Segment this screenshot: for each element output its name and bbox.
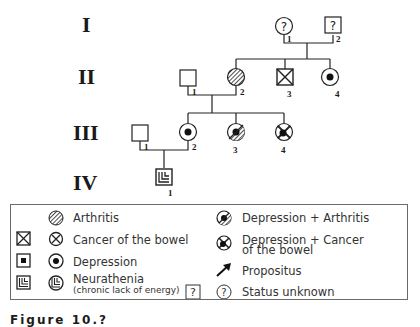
legend-label-depression-cancer: Depression + Cancer of the bowel — [242, 235, 364, 255]
legend-label-neurathenia: Neurathenia (chronic lack of energy) — [73, 273, 180, 295]
legend-label-depression-arthritis: Depression + Arthritis — [242, 212, 369, 224]
svg-text:3: 3 — [287, 89, 292, 99]
individual-IV-1: 1 — [156, 169, 173, 198]
svg-text:?: ? — [281, 20, 287, 34]
svg-text:2: 2 — [192, 142, 197, 152]
individual-III-3: 3 — [227, 123, 245, 155]
legend-label-propositus: Propositus — [242, 265, 302, 277]
legend-neurathenia-title: Neurathenia — [73, 272, 144, 286]
legend-label-cancer: Cancer of the bowel — [73, 234, 188, 246]
svg-text:2: 2 — [336, 34, 341, 44]
legend-neurathenia-sublabel: (chronic lack of energy) — [73, 285, 180, 295]
generation-label-IV: IV — [73, 170, 97, 196]
svg-text:1: 1 — [168, 188, 173, 198]
legend-label-depression: Depression — [73, 256, 137, 268]
svg-text:2: 2 — [240, 87, 245, 97]
svg-text:1: 1 — [287, 34, 292, 44]
svg-text:1: 1 — [192, 87, 197, 97]
generation-label-II: II — [78, 64, 95, 90]
svg-text:1: 1 — [144, 142, 149, 152]
individual-II-3: 3 — [277, 69, 293, 99]
svg-text:4: 4 — [335, 89, 340, 99]
figure-caption: Figure 10.? — [10, 313, 108, 327]
generation-label-I: I — [82, 12, 91, 38]
individual-II-4: 4 — [322, 69, 341, 100]
svg-text:4: 4 — [281, 145, 286, 155]
svg-text:3: 3 — [233, 145, 238, 155]
legend-label-status-unknown: Status unknown — [242, 286, 335, 298]
svg-text:?: ? — [330, 19, 336, 33]
legend-label-arthritis: Arthritis — [73, 212, 119, 224]
generation-label-III: III — [73, 120, 99, 146]
individual-III-4: 4 — [276, 124, 293, 156]
